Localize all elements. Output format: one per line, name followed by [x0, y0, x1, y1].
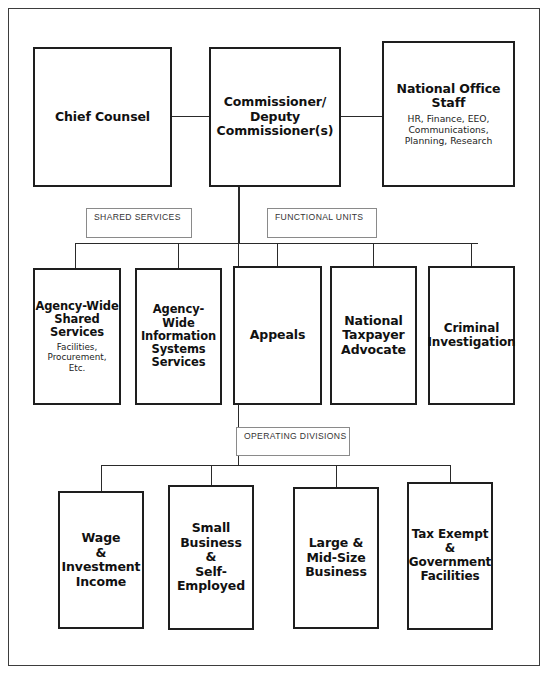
bus-label-text: SHARED SERVICES	[94, 212, 181, 222]
node-wage-investment-income[interactable]: Wage & Investment Income	[58, 491, 144, 629]
connector-drop-wage-investment-income	[101, 465, 102, 492]
node-national-office-staff[interactable]: National Office Staff HR, Finance, EEO, …	[382, 41, 515, 187]
node-agency-wide-information-systems-services[interactable]: Agency-Wide Information Systems Services	[135, 268, 222, 405]
node-title: Small Business & Self- Employed	[177, 521, 245, 594]
node-tax-exempt-government-facilities[interactable]: Tax Exempt & Government Facilities	[407, 482, 493, 630]
connector-drop-agency-wide-information-systems	[178, 243, 179, 269]
node-subtitle: Facilities, Procurement, Etc.	[47, 342, 106, 374]
org-chart-canvas: Chief Counsel Commissioner/ Deputy Commi…	[0, 0, 548, 675]
bus-label-text: FUNCTIONAL UNITS	[275, 212, 363, 222]
connector-divisions-bus	[101, 465, 450, 466]
connector-central-trunk-upper	[238, 243, 239, 267]
node-title: Tax Exempt & Government Facilities	[409, 528, 491, 584]
node-subtitle: HR, Finance, EEO, Communications, Planni…	[405, 113, 493, 146]
connector-drop-appeals	[277, 243, 278, 267]
connector-drop-small-business-self-employed	[211, 465, 212, 486]
connector-drop-criminal-investigation	[471, 243, 472, 267]
node-title: Wage & Investment Income	[62, 531, 141, 589]
connector-commissioner-to-national-office-staff	[341, 116, 383, 117]
node-title: Large & Mid-Size Business	[305, 536, 367, 580]
node-title: Criminal Investigation	[428, 322, 516, 350]
node-commissioner[interactable]: Commissioner/ Deputy Commissioner(s)	[209, 47, 341, 187]
node-title: Commissioner/ Deputy Commissioner(s)	[217, 95, 334, 139]
node-large-mid-size-business[interactable]: Large & Mid-Size Business	[293, 487, 379, 629]
node-title: National Office Staff	[397, 82, 501, 111]
connector-commissioner-trunk	[238, 187, 240, 244]
node-agency-wide-shared-services[interactable]: Agency-Wide Shared Services Facilities, …	[33, 268, 121, 405]
node-small-business-self-employed[interactable]: Small Business & Self- Employed	[168, 485, 254, 630]
connector-drop-agency-wide-shared-services	[75, 243, 76, 269]
node-title: Chief Counsel	[55, 110, 150, 125]
node-title: Appeals	[250, 328, 306, 343]
connector-chief-counsel-to-commissioner	[172, 116, 210, 117]
node-title: National Taxpayer Advocate	[341, 314, 406, 358]
node-title: Agency-Wide Shared Services	[35, 300, 118, 340]
connector-drop-national-taxpayer-advocate	[373, 243, 374, 267]
node-criminal-investigation[interactable]: Criminal Investigation	[428, 266, 515, 405]
bus-label-shared-services: SHARED SERVICES	[86, 208, 192, 238]
node-chief-counsel[interactable]: Chief Counsel	[33, 47, 172, 187]
node-appeals[interactable]: Appeals	[233, 266, 322, 405]
node-national-taxpayer-advocate[interactable]: National Taxpayer Advocate	[330, 266, 417, 405]
node-title: Agency-Wide Information Systems Services	[137, 303, 220, 370]
bus-label-functional-units: FUNCTIONAL UNITS	[267, 208, 377, 238]
connector-drop-large-mid-size-business	[336, 465, 337, 488]
bus-label-text: OPERATING DIVISIONS	[244, 431, 346, 441]
bus-label-operating-divisions: OPERATING DIVISIONS	[236, 427, 350, 456]
connector-drop-tax-exempt-government-facilities	[450, 465, 451, 483]
